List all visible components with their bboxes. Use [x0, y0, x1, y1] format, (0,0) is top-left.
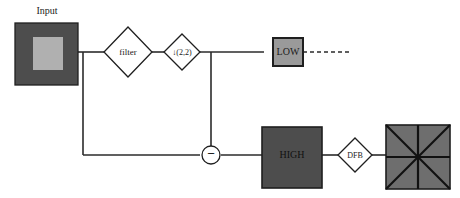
filter-label: filter — [119, 47, 137, 57]
dfb-diamond[interactable]: DFB — [338, 138, 372, 172]
downsample-diamond[interactable]: ↓(2,2) — [164, 34, 200, 70]
input-image-block — [15, 23, 78, 85]
input-inner-square — [33, 37, 63, 70]
low-label: LOW — [277, 46, 300, 57]
low-band-box[interactable]: LOW — [273, 38, 303, 66]
subtract-node[interactable]: − — [202, 146, 220, 164]
dfb-label: DFB — [347, 151, 363, 160]
diagram-canvas: Input filter ↓(2,2) LOW − HIGH — [0, 0, 460, 198]
block-diagram: Input filter ↓(2,2) LOW − HIGH — [0, 0, 460, 198]
downsample-label: ↓(2,2) — [172, 48, 192, 57]
input-label: Input — [36, 5, 57, 16]
filter-diamond[interactable]: filter — [104, 27, 152, 77]
directional-wedge-block — [386, 125, 450, 189]
subtract-minus-label: − — [207, 146, 215, 161]
high-band-box[interactable]: HIGH — [262, 127, 322, 188]
high-label: HIGH — [280, 149, 305, 160]
